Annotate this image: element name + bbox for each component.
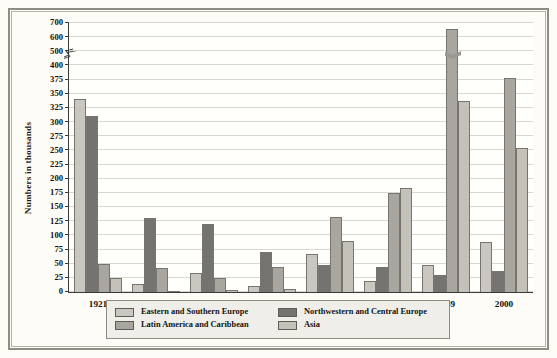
chart-figure: Numbers in thousands 0255075100125150175… <box>0 0 557 358</box>
bar <box>74 99 86 292</box>
y-tick-label: 400 <box>50 61 63 70</box>
y-tick-label: 75 <box>54 245 63 254</box>
bar <box>516 148 528 292</box>
legend-label: Eastern and Southern Europe <box>141 308 248 316</box>
y-tick-label: 300 <box>50 118 63 127</box>
bar <box>226 290 238 292</box>
chart-legend: Eastern and Southern Europe Northwestern… <box>106 300 450 339</box>
bar-group: 2000 <box>475 23 533 292</box>
y-tick-label: 600 <box>50 33 63 42</box>
legend-swatch-icon <box>278 308 297 317</box>
bar <box>458 101 470 292</box>
bar-group: 1930 <box>185 23 243 292</box>
legend-label: Latin America and Caribbean <box>141 321 249 329</box>
y-tick-label: 700 <box>50 19 63 28</box>
plot-wrapper: Numbers in thousands 0255075100125150175… <box>13 13 544 345</box>
bar <box>214 278 226 292</box>
legend-row: Eastern and Southern Europe Northwestern… <box>115 306 441 319</box>
bar <box>272 267 284 292</box>
bar-break-icon <box>445 50 461 61</box>
bar <box>364 281 376 292</box>
bar-group: 1953 <box>243 23 301 292</box>
bar <box>422 265 434 292</box>
bar <box>318 265 330 292</box>
y-tick-label: 50 <box>54 259 63 268</box>
bar <box>284 289 296 292</box>
bar <box>156 268 168 292</box>
bar <box>132 284 144 292</box>
y-tick-label: 0 <box>59 288 63 297</box>
y-tick-label: 25 <box>54 274 63 283</box>
bar-group: 1925 <box>127 23 185 292</box>
y-tick-label: 500 <box>50 47 63 56</box>
y-tick-label: 200 <box>50 174 63 183</box>
bar <box>190 273 202 292</box>
legend-item-eastern-and-southern-europe: Eastern and Southern Europe <box>115 308 278 317</box>
y-tick-label: 175 <box>50 189 63 198</box>
bar <box>144 218 156 292</box>
bar-group: 1979 <box>359 23 417 292</box>
bar <box>330 217 342 292</box>
y-axis-title: Numbers in thousands <box>23 88 33 248</box>
y-tick-label: 150 <box>50 203 63 212</box>
y-tick-label: 250 <box>50 146 63 155</box>
bar <box>376 267 388 292</box>
y-tick-label: 125 <box>50 217 63 226</box>
bar <box>168 291 180 292</box>
bar <box>202 224 214 292</box>
bar <box>86 116 98 292</box>
bar <box>110 278 122 292</box>
bar <box>388 193 400 292</box>
x-tick-label: 2000 <box>495 299 513 309</box>
bar <box>306 254 318 292</box>
bar <box>492 271 504 292</box>
legend-swatch-icon <box>115 308 134 317</box>
bar <box>260 252 272 292</box>
y-tick-label: 225 <box>50 160 63 169</box>
bar <box>248 286 260 292</box>
bar-group: 1970 <box>301 23 359 292</box>
x-tick-label: 1921 <box>89 299 107 309</box>
plot-area: 0255075100125150175200225250275300325350… <box>68 23 533 293</box>
legend-swatch-icon <box>115 321 134 330</box>
y-tick-label: 100 <box>50 231 63 240</box>
legend-item-northwestern-and-central-europe: Northwestern and Central Europe <box>278 308 441 317</box>
legend-swatch-icon <box>278 321 297 330</box>
bar <box>504 78 516 292</box>
y-tick-label: 350 <box>50 90 63 99</box>
y-tick-label: 325 <box>50 104 63 113</box>
legend-label: Northwestern and Central Europe <box>304 308 427 316</box>
bar <box>400 188 412 292</box>
legend-label: Asia <box>304 321 320 329</box>
bar <box>98 264 110 292</box>
y-tick-label: 275 <box>50 132 63 141</box>
bar-group: 1989 <box>417 23 475 292</box>
bar <box>434 275 446 292</box>
bar <box>446 29 458 292</box>
bar-group: 1921 <box>69 23 127 292</box>
legend-item-latin-america-and-caribbean: Latin America and Caribbean <box>115 321 278 330</box>
bar <box>480 242 492 292</box>
y-tick-label: 375 <box>50 75 63 84</box>
bar <box>342 241 354 292</box>
legend-item-asia: Asia <box>278 321 441 330</box>
legend-row: Latin America and Caribbean Asia <box>115 319 441 332</box>
